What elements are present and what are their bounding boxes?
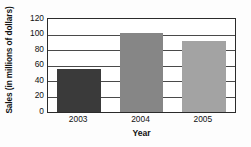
y-tick-label: 0: [14, 107, 44, 115]
x-tick-label: 2005: [172, 114, 234, 125]
y-tick-label: 100: [14, 29, 44, 37]
y-tick-label: 120: [14, 14, 44, 22]
x-axis-title: Year: [47, 128, 236, 138]
x-tick-label: 2004: [109, 114, 171, 125]
y-axis-tick-labels: 020406080100120: [14, 0, 44, 147]
plot-area: [47, 18, 236, 113]
y-tick-label: 60: [14, 60, 44, 68]
bar-chart-figure: Sales (in millions of dollars) 020406080…: [0, 0, 251, 147]
bar-2003: [57, 69, 101, 112]
y-tick-label: 20: [14, 91, 44, 99]
x-axis-tick-labels: 200320042005: [47, 114, 236, 126]
bar-2004: [120, 33, 164, 112]
y-tick-label: 40: [14, 76, 44, 84]
y-tick-label: 80: [14, 45, 44, 53]
x-tick-label: 2003: [47, 114, 109, 125]
bar-2005: [182, 41, 226, 112]
